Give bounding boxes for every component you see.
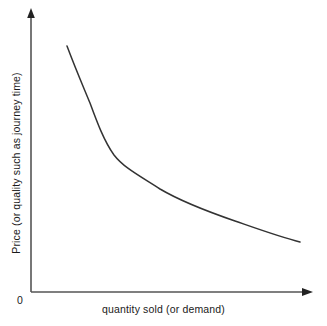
x-axis-label: quantity sold (or demand) — [0, 303, 327, 315]
chart-canvas — [0, 0, 327, 326]
demand-curve-figure: 0 Price (or quality such as journey time… — [0, 0, 327, 326]
demand-curve-path — [67, 46, 300, 242]
y-axis-label: Price (or quality such as journey time) — [10, 72, 22, 254]
y-axis-arrowhead-icon — [27, 8, 35, 18]
x-axis-arrowhead-icon — [302, 288, 313, 296]
